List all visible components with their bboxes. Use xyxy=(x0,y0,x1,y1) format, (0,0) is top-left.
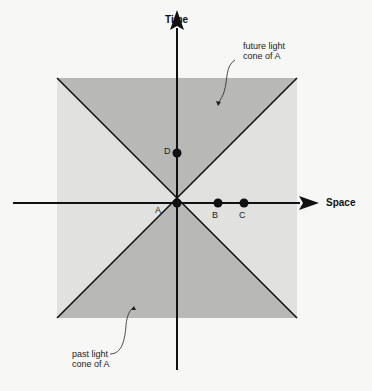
future-cone-label: future light cone of A xyxy=(243,41,285,61)
spacetime-diagram xyxy=(0,0,372,391)
point-a-label: A xyxy=(155,205,161,215)
point-d-label: D xyxy=(164,146,171,156)
past-cone-label: past light cone of A xyxy=(72,349,110,369)
point-c-label: C xyxy=(239,210,246,220)
space-arrow-icon xyxy=(299,196,319,210)
point-d-dot xyxy=(173,149,182,158)
point-c-dot xyxy=(240,199,249,208)
point-b-label: B xyxy=(212,210,218,220)
point-a-dot xyxy=(173,199,182,208)
time-axis-label: Time xyxy=(165,14,188,25)
point-b-dot xyxy=(214,199,223,208)
space-axis-label: Space xyxy=(326,197,355,208)
